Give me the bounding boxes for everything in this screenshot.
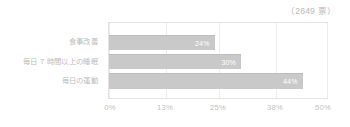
x-tick-label-1: 13% [157, 103, 173, 112]
category-label-1: 毎日 7 時間以上の睡眠 [23, 56, 98, 65]
bar-chart: （2649 票） 食事改善 毎日 7 時間以上の睡眠 毎日の運動 24% 30%… [0, 0, 350, 127]
bar-2[interactable]: 44% [109, 73, 303, 89]
bar-1[interactable]: 30% [109, 54, 241, 70]
plot-area: 24% 30% 44% [108, 22, 328, 99]
bars-layer: 24% 30% 44% [109, 23, 327, 98]
bar-0[interactable]: 24% [109, 35, 215, 51]
category-label-2: 毎日の運動 [62, 75, 99, 84]
x-tick-label-0: 0% [104, 103, 115, 112]
x-tick-label-2: 25% [210, 103, 226, 112]
bar-value-label-1: 30% [221, 59, 236, 66]
x-axis: 0% 13% 25% 38% 50% [108, 101, 328, 117]
bar-value-label-2: 44% [283, 78, 298, 85]
category-axis-labels: 食事改善 毎日 7 時間以上の睡眠 毎日の運動 [0, 22, 104, 99]
bar-value-label-0: 24% [195, 39, 210, 46]
total-votes-note: （2649 票） [286, 4, 336, 16]
gridline-50 [327, 23, 328, 98]
category-label-0: 食事改善 [69, 37, 98, 46]
x-tick-label-4: 50% [315, 103, 331, 112]
x-tick-label-3: 38% [267, 103, 283, 112]
